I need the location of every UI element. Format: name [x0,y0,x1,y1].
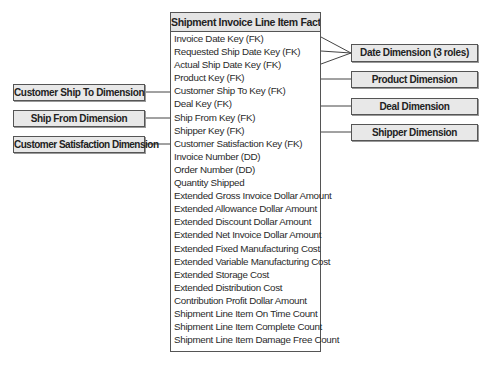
dimension-ship-from: Ship From Dimension [13,110,145,127]
fact-attribute-list: Invoice Date Key (FK)Requested Ship Date… [171,32,320,346]
fact-attribute: Shipment Line Item Damage Free Count [174,333,320,346]
fact-attribute: Product Key (FK) [174,71,320,84]
fact-attribute: Shipment Line Item On Time Count [174,307,320,320]
fact-attribute: Extended Storage Cost [174,268,320,281]
fact-attribute: Ship From Key (FK) [174,111,320,124]
fact-attribute: Deal Key (FK) [174,97,320,110]
fact-attribute: Actual Ship Date Key (FK) [174,58,320,71]
fact-attribute: Contribution Profit Dollar Amount [174,294,320,307]
fact-attribute: Customer Ship To Key (FK) [174,84,320,97]
dimension-deal: Deal Dimension [351,98,478,115]
fact-attribute: Requested Ship Date Key (FK) [174,45,320,58]
fact-table-shipment-invoice-line-item: Shipment Invoice Line Item Fact Invoice … [170,12,321,352]
fact-attribute: Quantity Shipped [174,176,320,189]
dimension-product: Product Dimension [351,71,478,88]
fact-attribute: Invoice Number (DD) [174,150,320,163]
fact-attribute: Extended Net Invoice Dollar Amount [174,228,320,241]
fact-attribute: Shipper Key (FK) [174,124,320,137]
fact-attribute: Extended Variable Manufacturing Cost [174,255,320,268]
dimension-date: Date Dimension (3 roles) [351,44,478,62]
fact-attribute: Extended Allowance Dollar Amount [174,202,320,215]
fact-attribute: Extended Discount Dollar Amount [174,215,320,228]
fact-attribute: Shipment Line Item Complete Count [174,320,320,333]
fact-attribute: Order Number (DD) [174,163,320,176]
fact-attribute: Invoice Date Key (FK) [174,32,320,45]
fact-table-title: Shipment Invoice Line Item Fact [171,13,320,32]
dimension-customer-satisfaction: Customer Satisfaction Dimension [13,136,145,153]
fact-attribute: Customer Satisfaction Key (FK) [174,137,320,150]
fact-attribute: Extended Gross Invoice Dollar Amount [174,189,320,202]
dimension-customer-ship-to: Customer Ship To Dimension [13,84,145,101]
dimension-shipper: Shipper Dimension [351,124,478,141]
fact-attribute: Extended Fixed Manufacturing Cost [174,242,320,255]
fact-attribute: Extended Distribution Cost [174,281,320,294]
